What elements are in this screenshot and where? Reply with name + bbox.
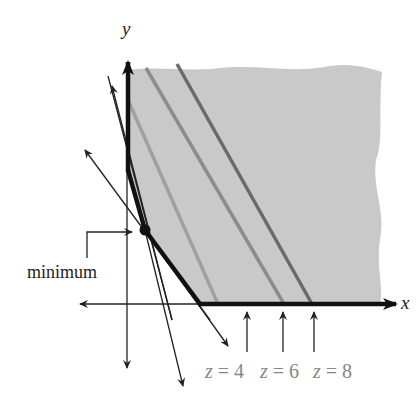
x-axis-label: x	[401, 292, 409, 314]
minimum-point	[140, 225, 151, 236]
level-eq: =	[218, 360, 229, 382]
level-value: 8	[342, 360, 352, 382]
diagram-canvas	[0, 0, 419, 409]
level-label-z8: z = 8	[313, 360, 352, 383]
level-value: 6	[289, 360, 299, 382]
level-var: z	[313, 360, 321, 382]
minimum-label: minimum	[27, 262, 97, 283]
level-var: z	[205, 360, 213, 382]
minimum-callout-arrow	[87, 232, 132, 258]
level-label-z6: z = 6	[260, 360, 299, 383]
level-var: z	[260, 360, 268, 382]
level-eq: =	[273, 360, 284, 382]
y-axis-label: y	[122, 18, 130, 40]
level-label-z4: z = 4	[205, 360, 244, 383]
level-eq: =	[326, 360, 337, 382]
level-value: 4	[234, 360, 244, 382]
